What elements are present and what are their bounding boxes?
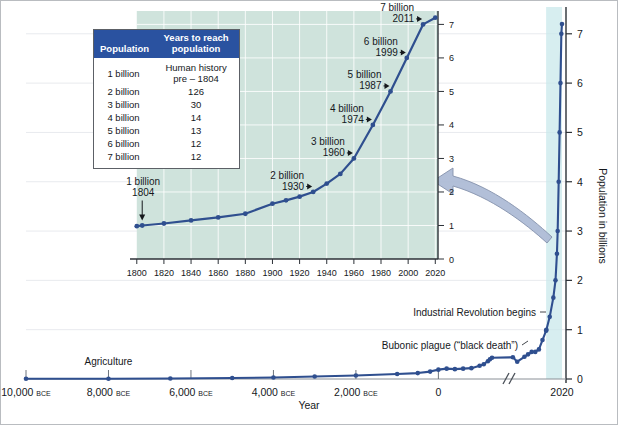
- data-point: [511, 355, 516, 360]
- inset-milestone-year: 1974: [342, 114, 365, 125]
- x-tick-label: 0: [435, 386, 441, 398]
- table-cell-years: 30: [153, 99, 239, 112]
- table-cell-years: Human historypre – 1804: [153, 58, 239, 86]
- table-cell-years: 13: [153, 125, 239, 138]
- y-tick-label: 1: [577, 324, 583, 336]
- table-cell-years: 12: [153, 151, 239, 168]
- y-tick-label: 6: [577, 77, 583, 89]
- table-body: 1 billionHuman historypre – 18042 billio…: [94, 58, 239, 167]
- annotation-industrial-revolution: Industrial Revolution begins: [413, 307, 536, 318]
- data-point: [230, 376, 235, 381]
- inset-x-tick-label: 2000: [398, 268, 418, 278]
- y-tick-label: 0: [577, 373, 583, 385]
- data-point: [544, 327, 549, 332]
- inset-y-tick-label: 1: [449, 221, 454, 231]
- inset-milestone-year: 1930: [282, 181, 305, 192]
- data-point: [559, 31, 564, 36]
- inset-data-point: [433, 15, 438, 20]
- inset-y-tick-label: 6: [449, 53, 454, 63]
- x-tick-label: 6,000 BCE: [169, 386, 213, 398]
- inset-data-point: [311, 190, 316, 195]
- inset-data-point: [404, 56, 409, 61]
- years-to-reach-population-table: Population Years to reach population 1 b…: [93, 29, 240, 169]
- data-point: [515, 359, 520, 364]
- inset-data-point: [297, 194, 302, 199]
- inset-x-tick-label: 1800: [127, 268, 147, 278]
- inset-connector-arrow: [433, 168, 552, 243]
- inset-y-tick-label: 3: [449, 154, 454, 164]
- table-row: 5 billion13: [94, 125, 239, 138]
- data-point: [556, 179, 561, 184]
- data-point: [547, 315, 552, 320]
- y-tick-label: 4: [577, 176, 583, 188]
- table-header-population: Population: [94, 30, 153, 58]
- inset-milestone-label: 3 billion: [311, 136, 345, 147]
- x-tick-label: 2,000 BCE: [334, 386, 378, 398]
- table-cell-years: 12: [153, 138, 239, 151]
- data-point: [469, 366, 474, 371]
- table-row: 1 billionHuman historypre – 1804: [94, 58, 239, 86]
- inset-milestone-label: 5 billion: [348, 69, 382, 80]
- annotation-leader-line: [522, 341, 528, 345]
- x-tick-label: 8,000 BCE: [87, 386, 131, 398]
- table-row: 2 billion126: [94, 86, 239, 99]
- inset-data-point: [284, 198, 289, 203]
- inset-x-tick-label: 1880: [235, 268, 255, 278]
- inset-data-point: [421, 22, 426, 27]
- inset-milestone-year: 1804: [132, 187, 155, 198]
- inset-milestone-year: 1987: [359, 80, 382, 91]
- table-row: 3 billion30: [94, 99, 239, 112]
- inset-y-tick-labels: 01234567: [449, 20, 454, 265]
- data-point: [453, 367, 458, 372]
- x-tick-label: 4,000 BCE: [252, 386, 296, 398]
- data-point: [415, 371, 420, 376]
- annotation-bubonic-plague: Bubonic plague (“black death”): [382, 340, 518, 351]
- inset-y-tick-label: 0: [449, 255, 454, 265]
- data-point: [555, 229, 560, 234]
- data-point: [537, 347, 542, 352]
- inset-x-tick-label: 1920: [290, 268, 310, 278]
- inset-milestone-label: 6 billion: [364, 36, 398, 47]
- table-header-row: Population Years to reach population: [94, 30, 239, 58]
- inset-x-tick-label: 1860: [208, 268, 228, 278]
- data-point: [395, 372, 400, 377]
- data-point: [558, 81, 563, 86]
- data-point: [555, 251, 560, 256]
- table-cell-population: 3 billion: [94, 99, 153, 112]
- data-point: [106, 376, 111, 381]
- inset-milestone-year: 1999: [376, 47, 399, 58]
- inset-connector-arrow-shape: [433, 168, 552, 243]
- inset-data-point: [270, 201, 275, 206]
- data-point: [461, 366, 466, 371]
- data-point: [490, 355, 495, 360]
- inset-x-tick-label: 1820: [154, 268, 174, 278]
- table-cell-population: 6 billion: [94, 138, 153, 151]
- inset-data-point: [189, 218, 194, 223]
- inset-y-tick-label: 5: [449, 87, 454, 97]
- table-cell-population: 4 billion: [94, 112, 153, 125]
- inset-milestone-label: 4 billion: [330, 103, 364, 114]
- main-x-tick-labels: 10,000 BCE8,000 BCE6,000 BCE4,000 BCE2,0…: [1, 386, 574, 398]
- data-point: [436, 367, 441, 372]
- data-point: [481, 362, 486, 367]
- inset-x-tick-labels: 1800182018401860188019001920194019601980…: [127, 268, 446, 278]
- data-point: [560, 22, 565, 27]
- y-tick-label: 5: [577, 126, 583, 138]
- table-cell-years: 14: [153, 112, 239, 125]
- inset-milestone-label: 2 billion: [270, 170, 304, 181]
- inset-data-point: [134, 224, 139, 229]
- inset-milestone-year: 2011: [393, 13, 415, 24]
- x-tick-label: 2020: [550, 386, 574, 398]
- data-point: [477, 363, 482, 368]
- inset-x-tick-label: 1960: [344, 268, 364, 278]
- table-cell-years: 126: [153, 86, 239, 99]
- inset-data-point: [140, 223, 145, 228]
- data-point: [354, 373, 359, 378]
- main-y-axis-title: Population in billions: [597, 168, 609, 264]
- table-cell-population: 1 billion: [94, 58, 153, 86]
- main-y-tick-labels: 01234567: [577, 28, 583, 385]
- table-row: 7 billion12: [94, 151, 239, 168]
- inset-x-tick-label: 1980: [371, 268, 391, 278]
- y-tick-label: 3: [577, 225, 583, 237]
- annotation-agriculture: Agriculture: [85, 356, 133, 367]
